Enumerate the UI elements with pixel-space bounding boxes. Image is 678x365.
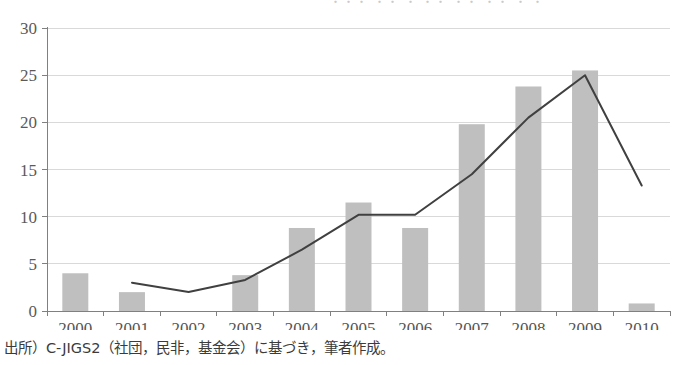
x-tick-label: 2009 xyxy=(568,319,602,330)
y-tick-label: 10 xyxy=(20,208,37,227)
figure-chart-with-source-note: ・・・ ・・ ・ ・・ ・・ ・・ ・ ・ 051015202530 20002… xyxy=(0,0,678,365)
bar xyxy=(459,124,485,311)
bar xyxy=(629,303,655,311)
bar xyxy=(402,228,428,311)
x-tick-label: 2010 xyxy=(625,319,659,330)
bar xyxy=(289,228,315,311)
y-tick-label: 15 xyxy=(20,161,37,180)
x-tick-label: 2000 xyxy=(58,319,92,330)
x-tick-label: 2008 xyxy=(511,319,545,330)
x-tick-label: 2006 xyxy=(398,319,432,330)
x-tick-label: 2003 xyxy=(228,319,262,330)
trend-line xyxy=(132,75,642,292)
bar xyxy=(515,86,541,311)
bar xyxy=(572,70,598,311)
x-tick-label: 2004 xyxy=(285,319,320,330)
combo-bar-line-chart: 051015202530 200020012002200320042005200… xyxy=(0,0,678,330)
plot-area-wrapper: 051015202530 200020012002200320042005200… xyxy=(0,0,678,330)
x-tick-label: 2001 xyxy=(115,319,149,330)
y-tick-label: 20 xyxy=(20,113,37,132)
bar xyxy=(62,273,88,311)
bar xyxy=(119,292,145,311)
y-tick-label: 0 xyxy=(29,302,38,321)
x-tick-label: 2005 xyxy=(342,319,376,330)
y-tick-label-group: 051015202530 xyxy=(20,19,37,321)
x-tick-label: 2002 xyxy=(172,319,206,330)
y-tick-label: 5 xyxy=(29,255,38,274)
y-tick-label: 25 xyxy=(20,66,37,85)
y-tick-label: 30 xyxy=(20,19,37,38)
x-tick-label-group: 2000200120022003200420052006200720082009… xyxy=(58,319,658,330)
bar xyxy=(346,203,372,311)
source-note: 出所）C-JIGS2（社団，民非，基金会）に基づき，筆者作成。 xyxy=(4,338,394,358)
x-tick-label: 2007 xyxy=(455,319,490,330)
bar-group xyxy=(62,70,654,311)
line-series-group xyxy=(132,75,642,292)
